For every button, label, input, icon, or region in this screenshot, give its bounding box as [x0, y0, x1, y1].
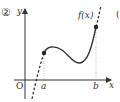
- origin-label: O: [16, 81, 23, 91]
- graph-canvas: ② y x O a b f(x) (: [0, 0, 120, 102]
- figure-number: ②: [1, 6, 11, 19]
- function-graph-figure: ② y x O a b f(x) (: [0, 0, 120, 102]
- function-curve: [44, 27, 96, 63]
- x-axis-label: x: [109, 80, 114, 90]
- dashed-extension-right: [96, 6, 101, 27]
- function-label: f(x): [77, 10, 94, 20]
- label-b: b: [93, 81, 99, 91]
- dashed-extension-left: [32, 53, 44, 99]
- endpoint-b: [94, 25, 98, 29]
- edge-fragment: (: [116, 9, 120, 19]
- y-axis-label: y: [16, 6, 23, 16]
- label-a: a: [41, 81, 46, 91]
- endpoint-a: [42, 51, 46, 55]
